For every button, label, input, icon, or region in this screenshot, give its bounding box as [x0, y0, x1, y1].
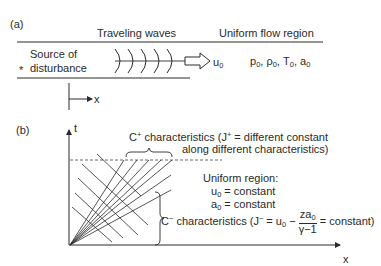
x-axis-label: x: [343, 253, 349, 265]
source-marker: *: [19, 64, 23, 76]
panel-a-label: (a): [10, 18, 23, 30]
panel-b-label: (b): [16, 124, 29, 136]
c-minus-label: C− characteristics (J− = u0 − za0γ−1 = c…: [161, 209, 375, 235]
c-plus-label-line2: along different characteristics): [182, 143, 329, 155]
fraction: za0γ−1: [299, 209, 317, 235]
source-line1: Source of: [30, 48, 77, 60]
state-variables: p0, ρ0, T0, a0: [250, 55, 310, 71]
uniform-flow-label: Uniform flow region: [219, 27, 314, 39]
velocity-label: u0: [213, 56, 223, 72]
uniform-region-title: Uniform region:: [203, 172, 278, 184]
t-axis-label: t: [74, 122, 77, 134]
traveling-waves-label: Traveling waves: [97, 27, 176, 39]
source-line2: disturbance: [30, 62, 87, 74]
x-marker-label: x: [94, 93, 100, 105]
c-minus-characteristics: [72, 154, 148, 242]
c-plus-brace: [126, 148, 172, 157]
flow-arrow-icon: [185, 53, 210, 69]
c-plus-label-line1: C+ characteristics (J+ = different const…: [129, 129, 328, 143]
